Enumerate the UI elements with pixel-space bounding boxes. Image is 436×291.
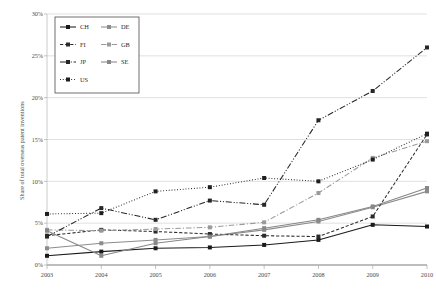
legend-label: FI bbox=[80, 41, 86, 48]
data-point bbox=[208, 235, 212, 239]
svg-text:Share of total overseas patent: Share of total overseas patent invention… bbox=[19, 101, 25, 200]
data-point bbox=[154, 227, 158, 231]
y-axis-tick-labels: 0%5%10%15%20%25%30% bbox=[32, 10, 47, 268]
line-chart: 0%5%10%15%20%25%30% 20032004200520062007… bbox=[0, 0, 436, 291]
y-tick-label: 20% bbox=[32, 94, 43, 101]
x-tick-label: 2009 bbox=[367, 271, 379, 278]
data-point bbox=[99, 254, 103, 258]
data-point bbox=[208, 245, 212, 249]
data-point bbox=[99, 229, 103, 233]
data-point bbox=[262, 203, 266, 207]
data-point bbox=[371, 158, 375, 162]
data-point bbox=[262, 243, 266, 247]
data-point bbox=[45, 229, 49, 233]
data-point bbox=[154, 218, 158, 222]
y-axis-title: Share of total overseas patent invention… bbox=[19, 101, 25, 200]
chart-legend: CHDEFIGBJPSEUS bbox=[55, 17, 139, 93]
y-tick-label: 5% bbox=[35, 219, 43, 226]
data-point bbox=[425, 139, 429, 143]
legend-marker bbox=[66, 78, 70, 82]
data-point bbox=[371, 223, 375, 227]
data-point bbox=[154, 246, 158, 250]
x-tick-label: 2008 bbox=[312, 271, 324, 278]
legend-marker bbox=[107, 60, 111, 64]
y-tick-label: 10% bbox=[32, 178, 43, 185]
data-point bbox=[425, 132, 429, 136]
x-axis-tick-labels: 20032004200520062007200820092010 bbox=[41, 265, 433, 278]
data-point bbox=[208, 225, 212, 229]
data-point bbox=[262, 234, 266, 238]
data-point bbox=[262, 220, 266, 224]
data-point bbox=[425, 45, 429, 49]
data-point bbox=[425, 225, 429, 229]
data-point bbox=[45, 235, 49, 239]
legend-marker bbox=[107, 43, 111, 47]
data-point bbox=[316, 235, 320, 239]
x-tick-label: 2004 bbox=[95, 271, 107, 278]
data-point bbox=[316, 218, 320, 222]
legend-label: DE bbox=[121, 23, 130, 30]
data-point bbox=[316, 191, 320, 195]
data-point bbox=[208, 199, 212, 203]
data-point bbox=[99, 206, 103, 210]
data-point bbox=[371, 89, 375, 93]
y-tick-label: 25% bbox=[32, 52, 43, 59]
chart-container: 0%5%10%15%20%25%30% 20032004200520062007… bbox=[0, 0, 436, 291]
y-tick-label: 15% bbox=[32, 136, 43, 143]
data-point bbox=[371, 214, 375, 218]
data-point bbox=[371, 204, 375, 208]
data-point bbox=[208, 185, 212, 189]
data-point bbox=[262, 176, 266, 180]
legend-label: JP bbox=[80, 58, 86, 65]
y-tick-label: 0% bbox=[35, 261, 43, 268]
data-point bbox=[99, 250, 103, 254]
data-point bbox=[45, 254, 49, 258]
legend-marker bbox=[66, 25, 70, 29]
data-point bbox=[45, 212, 49, 216]
data-point bbox=[154, 241, 158, 245]
legend-label: GB bbox=[121, 41, 130, 48]
legend-marker bbox=[66, 43, 70, 47]
x-tick-label: 2006 bbox=[204, 271, 216, 278]
legend-label: US bbox=[80, 76, 89, 83]
y-tick-label: 30% bbox=[32, 10, 43, 17]
data-point bbox=[316, 118, 320, 122]
x-tick-label: 2010 bbox=[421, 271, 433, 278]
data-point bbox=[425, 186, 429, 190]
data-point bbox=[45, 246, 49, 250]
data-point bbox=[99, 241, 103, 245]
data-point bbox=[316, 179, 320, 183]
legend-marker bbox=[66, 60, 70, 64]
data-point bbox=[154, 189, 158, 193]
data-point bbox=[262, 226, 266, 230]
x-tick-label: 2005 bbox=[149, 271, 161, 278]
legend-label: SE bbox=[121, 58, 129, 65]
x-tick-label: 2003 bbox=[41, 271, 53, 278]
x-tick-label: 2007 bbox=[258, 271, 270, 278]
data-point bbox=[99, 211, 103, 215]
legend-marker bbox=[107, 25, 111, 29]
legend-label: CH bbox=[80, 23, 89, 30]
